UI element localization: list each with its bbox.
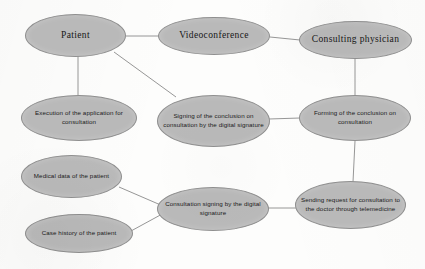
node-medical-data[interactable]: Medical data of the patient: [21, 155, 122, 198]
node-label-sending-request: Sending request for consultation to the …: [296, 196, 405, 214]
edge-forming-sending: [353, 141, 355, 182]
node-consulting-physician[interactable]: Consulting physician: [299, 21, 412, 59]
node-label-videoconference: Videoconference: [175, 29, 253, 42]
node-label-patient: Patient: [57, 29, 94, 42]
node-label-consulting-physician: Consulting physician: [308, 33, 404, 46]
node-label-case-history: Case history of the patient: [38, 229, 121, 238]
node-case-history[interactable]: Case history of the patient: [25, 214, 133, 253]
node-forming-of-conclusion[interactable]: Forming of the conclusion on consultatio…: [299, 95, 411, 141]
node-label-consultation-signing: Consultation signing by the digital sign…: [158, 200, 268, 218]
node-videoconference[interactable]: Videoconference: [158, 17, 270, 55]
edge-patient-signing: [114, 52, 176, 97]
edge-signing-forming: [269, 118, 300, 119]
node-sending-request[interactable]: Sending request for consultation to the …: [295, 181, 406, 229]
node-label-signing-of-conclusion: Signing of the conclusion on consultatio…: [158, 112, 269, 130]
node-label-medical-data: Medical data of the patient: [30, 172, 113, 181]
node-signing-of-conclusion[interactable]: Signing of the conclusion on consultatio…: [157, 95, 270, 147]
edge-videoconference-consulting-physician: [270, 37, 300, 40]
node-label-execution-of-application: Execution of the application for consult…: [22, 109, 136, 127]
node-consultation-signing[interactable]: Consultation signing by the digital sign…: [157, 187, 269, 231]
node-label-forming-of-conclusion: Forming of the conclusion on consultatio…: [300, 109, 410, 127]
diagram-canvas: PatientVideoconferenceConsulting physici…: [0, 0, 425, 269]
node-patient[interactable]: Patient: [25, 14, 126, 57]
edge-medical-data-consultation: [119, 187, 163, 206]
node-execution-of-application[interactable]: Execution of the application for consult…: [21, 95, 137, 141]
